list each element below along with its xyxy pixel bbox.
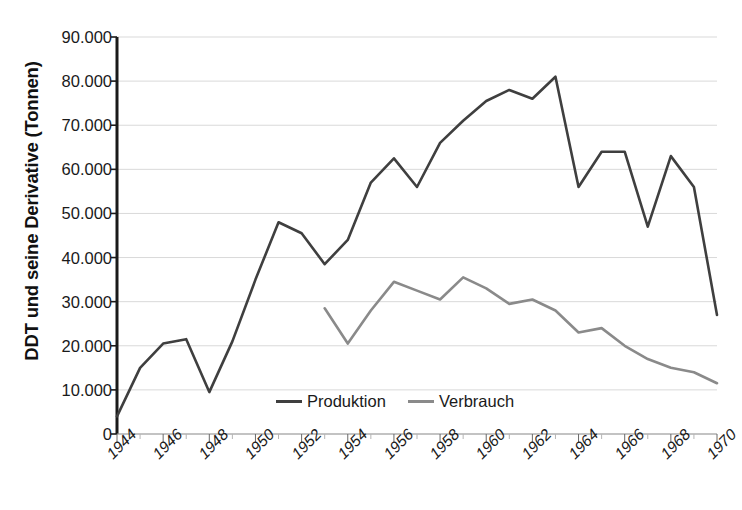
legend-label: Produktion [307, 392, 386, 411]
x-tick-label: 1964 [565, 426, 602, 463]
chart-legend: ProduktionVerbrauch [276, 392, 514, 411]
x-tick-label: 1968 [657, 426, 694, 463]
x-tick-label: 1958 [426, 426, 463, 463]
x-tick-label: 1950 [241, 426, 278, 463]
x-tick-label: 1944 [103, 426, 140, 463]
x-tick-label: 1954 [334, 426, 371, 463]
legend-line-swatch-icon [276, 400, 302, 403]
legend-label: Verbrauch [439, 392, 514, 411]
x-tick-label: 1952 [288, 426, 325, 463]
legend-line-swatch-icon [408, 400, 434, 403]
legend-item-produktion[interactable]: Produktion [276, 392, 386, 411]
x-tick-label: 1960 [472, 426, 509, 463]
x-tick-label: 1962 [518, 426, 555, 463]
x-axis-tick-labels: 1944194619481950195219541956195819601962… [0, 0, 742, 510]
x-tick-label: 1970 [703, 426, 740, 463]
legend-item-verbrauch[interactable]: Verbrauch [408, 392, 514, 411]
x-tick-label: 1956 [380, 426, 417, 463]
x-tick-label: 1946 [149, 426, 186, 463]
line-chart: DDT und seine Derivative (Tonnen) 010.00… [0, 0, 742, 510]
x-tick-label: 1948 [195, 426, 232, 463]
x-tick-label: 1966 [611, 426, 648, 463]
